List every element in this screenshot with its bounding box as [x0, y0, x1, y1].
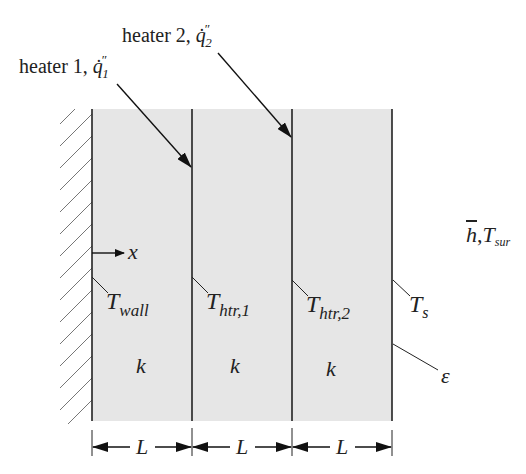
htr2-temp-sub: htr,2	[319, 304, 350, 323]
ambient-h: h	[466, 222, 477, 247]
htr1-temp-label: Thtr,1	[206, 288, 250, 315]
surface-temp-main: T	[409, 291, 422, 317]
layer3-thickness: L	[336, 434, 348, 460]
layer2-thickness: L	[236, 434, 248, 460]
layer1-conductivity: k	[136, 353, 146, 379]
htr2-temp-main: T	[306, 291, 319, 317]
surface-temp-leader	[393, 280, 410, 296]
heater1-sub: 1	[102, 66, 109, 81]
layer2-conductivity: k	[230, 353, 240, 379]
heater2-sup: ″	[205, 21, 210, 36]
htr1-temp-main: T	[206, 288, 219, 314]
layer3-conductivity: k	[326, 356, 336, 382]
wall-temp-sub: wall	[119, 301, 148, 320]
heater2-text: heater 2,	[122, 24, 196, 46]
heater2-label: heater 2, q̇″2	[122, 24, 218, 47]
heater1-sup: ″	[102, 52, 107, 67]
heater1-text: heater 1,	[19, 55, 93, 77]
wall-hatching	[60, 109, 92, 424]
layer1-thickness: L	[136, 434, 148, 460]
wall-temp-main: T	[106, 288, 119, 314]
wall-temp-label: Twall	[106, 288, 149, 315]
x-axis-label: x	[128, 239, 138, 265]
heater2-sub: 2	[205, 35, 212, 50]
emissivity-leader	[393, 344, 438, 370]
surface-temp-sub: s	[422, 304, 428, 321]
emissivity-label: ε	[441, 363, 450, 389]
ambient-T: T	[483, 222, 495, 247]
heater1-label: heater 1, q̇″1	[19, 55, 115, 78]
ambient-sub: sur	[495, 235, 510, 249]
htr1-temp-sub: htr,1	[219, 301, 250, 320]
htr2-temp-label: Thtr,2	[306, 291, 350, 318]
ambient-label: h,Tsur	[466, 222, 510, 248]
surface-temp-label: Ts	[409, 291, 429, 318]
